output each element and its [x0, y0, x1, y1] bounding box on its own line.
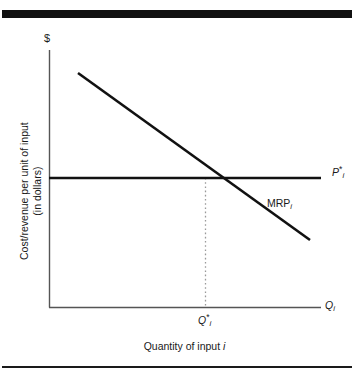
- equilibrium-quantity-label-subscript: i: [210, 319, 212, 328]
- x-axis-title: Quantity of input i: [49, 341, 320, 352]
- input-price-label-subscript: i: [342, 171, 344, 180]
- mrp-curve-label-base: MRP: [267, 197, 290, 209]
- mrp-curve-label: MRPi: [267, 198, 292, 209]
- mrp-curve-label-subscript: i: [290, 202, 292, 211]
- y-axis-title: Cost/revenue per unit of input (in dolla…: [18, 96, 44, 286]
- mrp-curve-line: [78, 73, 310, 240]
- economics-figure: $ Cost/revenue per unit of input (in dol…: [0, 0, 354, 378]
- x-axis-title-text: Quantity of input: [144, 340, 223, 352]
- x-axis-title-variable: i: [223, 340, 225, 352]
- dollar-axis-symbol: $: [44, 33, 50, 44]
- quantity-axis-label-subscript: i: [333, 304, 335, 313]
- plot-area: [0, 0, 354, 378]
- input-price-label-base: P: [332, 166, 339, 178]
- y-axis-title-line1: Cost/revenue per unit of input: [18, 122, 30, 260]
- y-axis-title-line2: (in dollars): [31, 167, 43, 216]
- equilibrium-quantity-label-base: Q: [198, 314, 206, 326]
- quantity-axis-label-base: Q: [325, 299, 333, 311]
- input-price-label: P*i: [332, 167, 344, 178]
- quantity-axis-label: Qi: [325, 300, 335, 311]
- equilibrium-quantity-label: Q*i: [198, 315, 211, 326]
